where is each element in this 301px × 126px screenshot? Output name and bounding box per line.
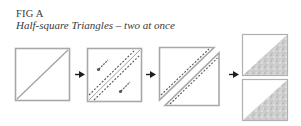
diagram <box>0 0 301 126</box>
step-3-cut-square <box>160 48 220 106</box>
step-2-stitched-square <box>88 49 142 102</box>
arrow-icon <box>146 71 156 78</box>
arrow-icon <box>229 71 239 78</box>
step-1-square <box>16 49 70 101</box>
finished-unit-bottom <box>243 80 288 121</box>
arrow-icon <box>75 71 85 78</box>
finished-unit-top <box>243 35 288 76</box>
